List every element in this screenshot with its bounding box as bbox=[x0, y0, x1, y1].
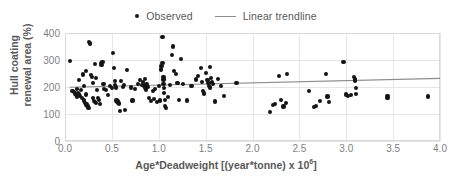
data-point bbox=[112, 66, 116, 70]
x-tick-label: 4.0 bbox=[425, 143, 452, 154]
x-axis-title: Age*Deadweight [(year*tonne) x 106] bbox=[0, 158, 452, 171]
data-point bbox=[143, 77, 147, 81]
data-point bbox=[84, 92, 88, 96]
data-point bbox=[95, 88, 99, 92]
x-tick-label: 2.0 bbox=[238, 143, 268, 154]
data-point bbox=[175, 81, 179, 85]
data-point bbox=[91, 81, 95, 85]
legend-item-linear-trendline: Linear trendline bbox=[215, 10, 317, 22]
data-point bbox=[111, 51, 115, 55]
data-point bbox=[324, 72, 328, 76]
data-point bbox=[101, 82, 105, 86]
data-point bbox=[354, 92, 358, 96]
y-tick-label: 400 bbox=[34, 28, 60, 39]
x-tick-label: 1.0 bbox=[144, 143, 174, 154]
scatter-chart: Observed Linear trendline Hull coating r… bbox=[0, 0, 452, 182]
observed-marker-icon bbox=[135, 14, 139, 18]
data-point bbox=[157, 84, 161, 88]
data-point bbox=[129, 85, 133, 89]
data-point bbox=[100, 60, 104, 64]
data-point bbox=[353, 79, 357, 83]
data-point bbox=[160, 61, 164, 65]
y-tick-label: 300 bbox=[34, 55, 60, 66]
gridline-horizontal bbox=[65, 141, 440, 142]
legend-item-observed: Observed bbox=[135, 10, 192, 22]
data-point bbox=[174, 72, 178, 76]
data-point bbox=[325, 94, 329, 98]
data-point bbox=[82, 84, 86, 88]
gridline-vertical bbox=[440, 33, 441, 141]
data-point bbox=[130, 98, 134, 102]
data-point bbox=[202, 91, 206, 95]
data-point bbox=[385, 96, 389, 100]
data-point bbox=[341, 60, 345, 64]
data-point bbox=[216, 77, 220, 81]
data-point bbox=[213, 99, 217, 103]
data-point bbox=[273, 102, 277, 106]
data-point bbox=[234, 81, 238, 85]
data-point bbox=[189, 84, 193, 88]
y-axis-title-line2: renewal area (%) bbox=[21, 24, 34, 107]
legend-label-linear-trendline: Linear trendline bbox=[243, 10, 317, 22]
trendline-marker-icon bbox=[215, 16, 236, 17]
x-tick-label: 0.5 bbox=[97, 143, 127, 154]
data-point bbox=[204, 71, 208, 75]
data-point bbox=[145, 85, 149, 89]
data-point bbox=[122, 83, 126, 87]
y-tick-label: 200 bbox=[34, 82, 60, 93]
chart-legend: Observed Linear trendline bbox=[0, 6, 452, 26]
data-point bbox=[81, 72, 85, 76]
data-point bbox=[426, 94, 430, 98]
data-point bbox=[114, 85, 118, 89]
x-axis-ticks: 0.00.51.01.52.02.53.03.54.0 bbox=[65, 143, 440, 157]
x-tick-label: 2.5 bbox=[284, 143, 314, 154]
x-tick-label: 3.5 bbox=[378, 143, 408, 154]
y-tick-label: 100 bbox=[34, 109, 60, 120]
x-axis-title-main: Age*Deadweight [(year*tonne) x 10 bbox=[135, 159, 309, 171]
data-point bbox=[68, 59, 72, 63]
data-point bbox=[354, 86, 358, 90]
data-point bbox=[160, 35, 164, 39]
x-tick-label: 3.0 bbox=[331, 143, 361, 154]
data-point bbox=[219, 84, 223, 88]
data-point bbox=[185, 98, 189, 102]
plot-area bbox=[65, 33, 440, 141]
data-point bbox=[279, 98, 283, 102]
y-axis-title-line1: Hull coating bbox=[8, 35, 21, 95]
x-tick-label: 1.5 bbox=[191, 143, 221, 154]
legend-label-observed: Observed bbox=[146, 10, 192, 22]
data-point bbox=[171, 44, 175, 48]
x-axis-title-tail: ] bbox=[313, 159, 317, 171]
data-point bbox=[307, 89, 311, 93]
data-point bbox=[158, 98, 162, 102]
data-point bbox=[277, 74, 281, 78]
x-tick-label: 0.0 bbox=[50, 143, 80, 154]
data-point bbox=[86, 106, 90, 110]
data-point bbox=[161, 77, 165, 81]
